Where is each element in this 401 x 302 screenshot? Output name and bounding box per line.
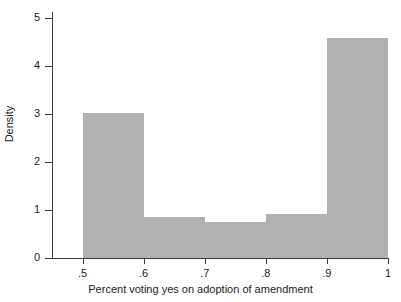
x-tick-label: .5: [68, 267, 98, 279]
histogram-bar: [83, 113, 144, 258]
histogram-bar: [205, 222, 266, 258]
histogram-bar: [266, 214, 327, 258]
histogram-bar: [144, 217, 205, 258]
x-tick-mark: [266, 258, 267, 264]
x-tick-label: 1: [373, 267, 401, 279]
y-tick-label: 5: [22, 12, 40, 23]
x-tick-mark: [144, 258, 145, 264]
y-tick-mark: [45, 114, 52, 115]
y-tick-label: 4: [22, 60, 40, 71]
x-tick-label: .8: [251, 267, 281, 279]
histogram-bar: [327, 38, 388, 258]
y-tick-mark: [45, 66, 52, 67]
x-tick-label: .9: [312, 267, 342, 279]
plot-area: [52, 12, 388, 258]
x-tick-mark: [83, 258, 84, 264]
histogram-chart: Density 012345 .5.6.7.8.91 Percent votin…: [0, 0, 401, 302]
x-tick-label: .7: [190, 267, 220, 279]
x-tick-mark: [205, 258, 206, 264]
y-axis-title: Density: [3, 89, 15, 159]
y-tick-label: 3: [22, 108, 40, 119]
y-tick-mark: [45, 18, 52, 19]
x-axis-line: [52, 258, 388, 259]
y-tick-mark: [45, 210, 52, 211]
x-axis-title: Percent voting yes on adoption of amendm…: [0, 283, 401, 296]
y-tick-label: 1: [22, 204, 40, 215]
y-tick-label: 0: [22, 252, 40, 263]
x-tick-label: .6: [129, 267, 159, 279]
y-tick-mark: [45, 258, 52, 259]
x-tick-mark: [388, 258, 389, 264]
x-tick-mark: [327, 258, 328, 264]
y-tick-label: 2: [22, 156, 40, 167]
y-tick-mark: [45, 162, 52, 163]
